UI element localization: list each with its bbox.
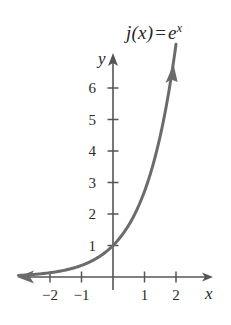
x-tick-label--2: −2 [39,288,61,303]
y-tick-label-6: 6 [78,81,96,96]
equals-sign: = [153,22,168,43]
base-e: e [168,22,177,43]
y-tick-label-5: 5 [78,113,96,128]
x-tick-label-2: 2 [165,288,187,303]
y-tick-label-4: 4 [78,144,96,159]
function-name: j(x) [126,22,153,43]
y-tick-label-2: 2 [78,207,96,222]
x-axis-label: x [205,285,213,302]
y-tick-label-3: 3 [78,176,96,191]
exponential-curve [19,44,177,275]
exponential-function-graph: j(x)=ex y x 6 5 4 3 2 1 [0,0,231,325]
function-label: j(x)=ex [126,22,182,42]
x-tick-label-1: 1 [134,288,156,303]
y-axis-label: y [98,50,106,67]
y-tick-label-1: 1 [78,239,96,254]
exponent-x: x [177,21,183,35]
x-tick-label--1: −1 [71,288,93,303]
graph-canvas [0,0,231,325]
